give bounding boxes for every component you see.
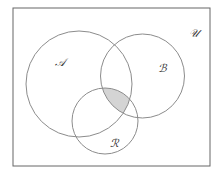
set-r-label: ℛ (110, 137, 120, 150)
venn-diagram: 𝒜 ℬ ℛ 𝒰 (0, 0, 221, 177)
set-b-label: ℬ (158, 62, 168, 75)
